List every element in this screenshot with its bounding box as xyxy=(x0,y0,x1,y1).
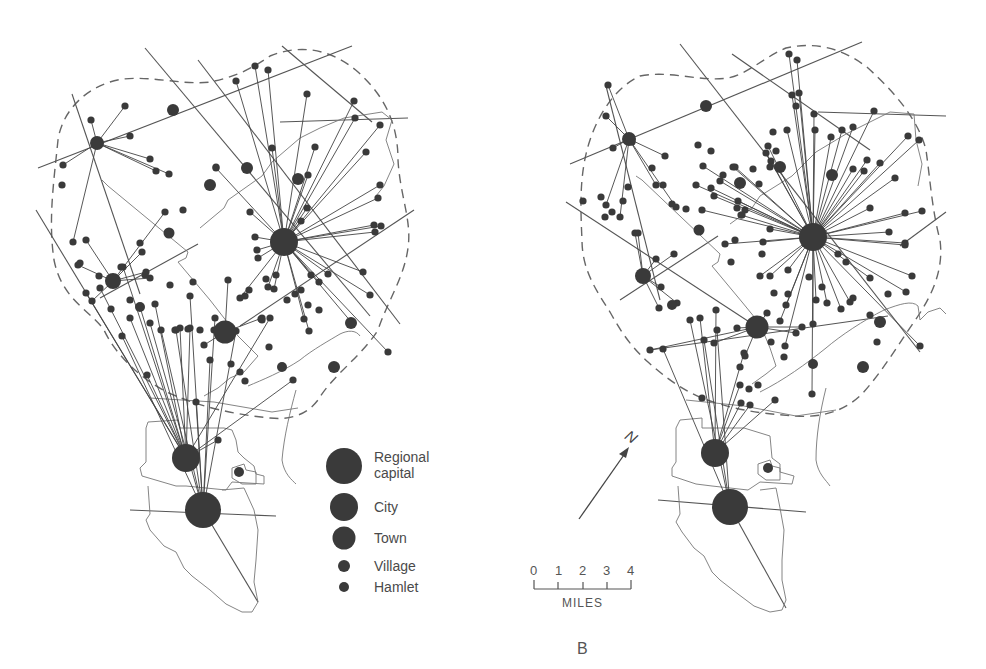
hamlet-dot xyxy=(266,314,273,321)
hamlet-dot xyxy=(766,225,773,232)
hamlet-dot xyxy=(696,314,703,321)
hamlet-dot xyxy=(384,348,391,355)
hamlet-dot xyxy=(798,323,805,330)
hamlet-dot xyxy=(324,270,331,277)
hamlet-dot xyxy=(304,171,311,178)
hamlet-dot xyxy=(253,246,260,253)
hamlet-dot xyxy=(88,297,95,304)
regional-capital-hub-dot xyxy=(799,223,827,251)
hamlet-dot xyxy=(756,272,763,279)
hamlet-dot xyxy=(758,250,765,257)
hamlet-dot xyxy=(232,77,239,84)
village-dot xyxy=(857,361,869,373)
village-dot xyxy=(328,361,340,373)
hamlet-dot xyxy=(767,338,774,345)
hamlet-dot xyxy=(371,228,378,235)
hamlet-dot xyxy=(377,222,384,229)
city-dot xyxy=(701,439,729,467)
hamlet-dot xyxy=(245,286,252,293)
hamlet-dot xyxy=(192,398,199,405)
hamlet-dot xyxy=(212,163,219,170)
hamlet-dot xyxy=(710,192,717,199)
hamlet-dot xyxy=(783,126,790,133)
hamlet-dot xyxy=(351,114,358,121)
hamlet-dot xyxy=(602,201,609,208)
hamlet-dot xyxy=(710,339,717,346)
hamlet-dot xyxy=(754,381,761,388)
hamlet-dot xyxy=(95,272,102,279)
hamlet-dot xyxy=(82,289,89,296)
hamlet-dot xyxy=(699,162,706,169)
right-hierarchy-links xyxy=(606,54,922,507)
right-settlements xyxy=(579,50,925,525)
settlement-hierarchy-figure: Regional capital City Town Village Hamle… xyxy=(0,0,986,669)
hamlet-dot xyxy=(303,90,310,97)
hamlet-dot xyxy=(908,272,915,279)
hamlet-dot xyxy=(866,204,873,211)
legend-label-town: Town xyxy=(374,530,407,546)
hamlet-dot xyxy=(737,399,744,406)
hamlet-dot xyxy=(707,184,714,191)
hamlet-dot xyxy=(827,133,834,140)
legend-symbol-icon xyxy=(326,448,362,484)
hamlet-dot xyxy=(265,343,272,350)
hamlet-dot xyxy=(157,326,164,333)
hamlet-dot xyxy=(849,294,856,301)
hamlet-dot xyxy=(241,377,248,384)
scale-unit: MILES xyxy=(562,596,603,610)
hamlet-dot xyxy=(692,181,699,188)
hamlet-dot xyxy=(608,208,615,215)
hamlet-dot xyxy=(362,148,369,155)
hamlet-dot xyxy=(795,89,802,96)
hamlet-dot xyxy=(305,327,312,334)
hamlet-dot xyxy=(297,217,304,224)
hamlet-dot xyxy=(793,56,800,63)
hamlet-dot xyxy=(151,300,158,307)
hamlet-dot xyxy=(904,132,911,139)
village-dot xyxy=(774,161,786,173)
hamlet-dot xyxy=(670,250,677,257)
village-dot xyxy=(135,302,145,312)
hamlet-dot xyxy=(719,171,726,178)
hamlet-dot xyxy=(646,346,653,353)
hamlet-dot xyxy=(682,205,689,212)
hamlet-dot xyxy=(721,240,728,247)
hamlet-dot xyxy=(866,311,873,318)
village-dot xyxy=(763,463,773,473)
hamlet-dot xyxy=(727,258,734,265)
hamlet-dot xyxy=(579,197,586,204)
hamlet-dot xyxy=(792,102,799,109)
hamlet-dot xyxy=(772,147,779,154)
village-dot xyxy=(700,100,712,112)
hamlet-dot xyxy=(849,123,856,130)
hamlet-dot xyxy=(694,141,701,148)
village-dot xyxy=(345,317,357,329)
hamlet-dot xyxy=(254,254,261,261)
hamlet-dot xyxy=(211,314,218,321)
hamlet-dot xyxy=(805,273,812,280)
hamlet-dot xyxy=(811,126,818,133)
hamlet-dot xyxy=(257,315,264,322)
hamlet-dot xyxy=(901,241,908,248)
hamlet-dot xyxy=(838,126,845,133)
hamlet-dot xyxy=(146,319,153,326)
hamlet-dot xyxy=(118,332,125,339)
hamlet-dot xyxy=(152,167,159,174)
legend-label-hamlet: Hamlet xyxy=(374,579,418,595)
hamlet-dot xyxy=(698,394,705,401)
village-dot xyxy=(808,359,818,369)
hamlet-dot xyxy=(141,271,148,278)
hamlet-dot xyxy=(289,376,296,383)
hamlet-dot xyxy=(891,174,898,181)
hamlet-dot xyxy=(766,272,773,279)
hamlet-dot xyxy=(619,197,626,204)
hamlet-dot xyxy=(166,281,173,288)
hamlet-dot xyxy=(300,315,307,322)
scale-tick-3: 3 xyxy=(603,563,610,578)
hamlet-dot xyxy=(604,81,611,88)
legend-regional-line1: Regional xyxy=(374,449,429,465)
village-dot xyxy=(105,273,121,289)
legend-label-regional-capital: Regional capital xyxy=(374,449,429,481)
hamlet-dot xyxy=(270,285,277,292)
hamlet-dot xyxy=(698,206,705,213)
